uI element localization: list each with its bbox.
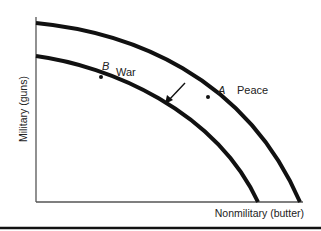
y-axis-label: Military (guns) (17, 76, 29, 142)
point-b-label: B (102, 60, 109, 72)
point-a-label: A (217, 84, 225, 96)
war-label: War (116, 66, 136, 78)
shift-arrow-icon (165, 83, 185, 104)
ppf-diagram: A Peace B War Military (guns) Nonmilitar… (0, 0, 321, 231)
x-axis-label: Nonmilitary (butter) (215, 207, 304, 219)
peace-label: Peace (237, 84, 268, 96)
point-b-marker (99, 75, 103, 79)
peace-frontier-curve (36, 23, 300, 202)
war-frontier-curve (36, 56, 258, 202)
point-a-marker (206, 95, 210, 99)
